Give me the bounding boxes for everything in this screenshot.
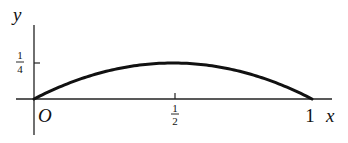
function-plot: y x O 1 4 1 2 1: [0, 0, 348, 143]
origin-label: O: [38, 105, 52, 126]
fraction-denominator: 4: [17, 63, 23, 75]
fraction-denominator: 2: [172, 115, 178, 127]
x-tick-label-one: 1: [305, 105, 315, 126]
fraction-numerator: 1: [172, 102, 178, 114]
x-axis-label: x: [325, 105, 335, 126]
fraction-numerator: 1: [17, 49, 23, 61]
x-tick-label-half: 1 2: [171, 102, 179, 127]
y-axis-label: y: [11, 4, 22, 25]
y-tick-label-quarter: 1 4: [16, 49, 24, 75]
parabola-curve: [34, 63, 312, 99]
